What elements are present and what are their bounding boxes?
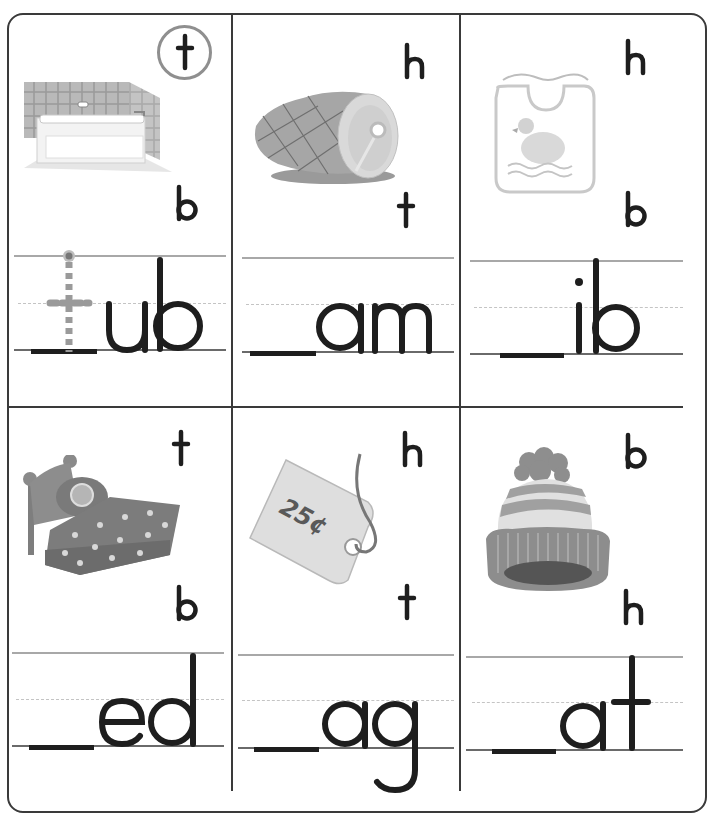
bib-picture	[488, 68, 608, 200]
choice-letter-b[interactable]: b	[624, 192, 664, 232]
writing-line-top	[238, 654, 454, 656]
choice-letter-h[interactable]: h	[622, 590, 662, 630]
bed-picture	[20, 455, 190, 584]
word-ending: ag	[323, 700, 433, 799]
column-divider-2	[459, 13, 461, 791]
word-ending: am	[318, 302, 438, 358]
choice-letter-t[interactable]: t	[397, 584, 437, 624]
ham-picture	[248, 86, 403, 190]
hat-picture	[484, 447, 614, 601]
row-divider	[7, 406, 683, 408]
choice-letter-t[interactable]: t	[396, 192, 436, 232]
answer-blank[interactable]	[254, 747, 319, 752]
word-ending: ed	[98, 654, 198, 753]
choice-letter-h[interactable]: h	[624, 40, 664, 80]
answer-blank[interactable]	[29, 745, 94, 750]
choice-letter-t[interactable]: t	[175, 34, 215, 74]
word-ending: ub	[104, 258, 204, 357]
choice-letter-h[interactable]: h	[403, 44, 443, 84]
answer-blank[interactable]	[492, 749, 556, 754]
trace-guide-t	[45, 248, 95, 354]
choice-letter-h[interactable]: h	[401, 432, 441, 472]
word-ending: at	[560, 656, 650, 755]
bathtub-picture	[22, 80, 177, 179]
answer-blank[interactable]	[250, 351, 316, 356]
writing-line-top	[242, 257, 454, 259]
word-ending: ib	[572, 259, 652, 359]
choice-letter-b[interactable]: b	[175, 186, 215, 226]
choice-letter-b[interactable]: b	[175, 586, 215, 626]
answer-blank[interactable]	[500, 353, 564, 358]
price-tag-picture: 25¢	[248, 452, 398, 591]
column-divider-1	[231, 13, 233, 791]
choice-letter-b[interactable]: b	[624, 434, 664, 474]
